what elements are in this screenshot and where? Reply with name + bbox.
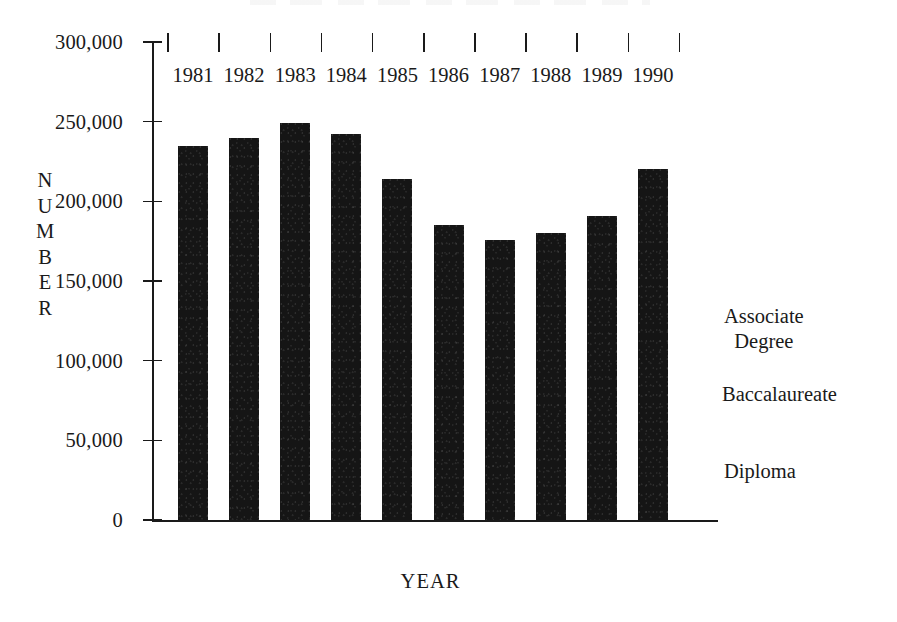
x-tick-label: 1987 [479, 64, 520, 87]
y-tick-label: 150,000 [55, 269, 123, 292]
x-tick [270, 33, 272, 52]
bar [280, 123, 310, 520]
x-axis-title-label: YEAR [401, 570, 461, 593]
y-tick: 250,000 [143, 121, 162, 123]
y-tick: 0 [143, 519, 162, 521]
x-tick-label: 1984 [326, 64, 367, 87]
y-tick: 100,000 [143, 360, 162, 362]
x-tick [423, 33, 425, 52]
x-tick [576, 33, 578, 52]
y-tick-label: 100,000 [55, 349, 123, 372]
bar [485, 240, 515, 520]
x-tick-label: 1990 [633, 64, 674, 87]
x-tick-label: 1982 [224, 64, 265, 87]
bar [536, 233, 566, 520]
bar [178, 146, 208, 520]
x-tick-label: 1981 [172, 64, 213, 87]
x-tick [525, 33, 527, 52]
legend-label-diploma: Diploma [724, 460, 796, 482]
y-tick-label: 250,000 [55, 110, 123, 133]
x-tick [167, 33, 169, 52]
x-tick [218, 33, 220, 52]
y-axis-title-letter: R [32, 296, 58, 322]
bar [587, 216, 617, 520]
y-axis-title-letter: E [32, 270, 58, 296]
x-axis-line [152, 520, 718, 522]
x-tick-label: 1985 [377, 64, 418, 87]
y-tick-label: 50,000 [65, 429, 123, 452]
y-axis-title-letter: M [32, 219, 58, 245]
y-tick: 150,000 [143, 280, 162, 282]
y-tick-label: 0 [113, 508, 123, 531]
y-axis-title-letter: N [32, 168, 58, 194]
cropped-title-remnant [250, 0, 650, 5]
y-tick-label: 300,000 [55, 31, 123, 54]
x-tick [474, 33, 476, 52]
x-tick [321, 33, 323, 52]
y-tick: 50,000 [143, 440, 162, 442]
x-tick-label: 1988 [530, 64, 571, 87]
legend-label-baccalaureate: Baccalaureate [722, 383, 837, 405]
bar-chart: 050,000100,000150,000200,000250,000300,0… [0, 0, 897, 622]
y-tick-label: 200,000 [55, 190, 123, 213]
x-tick [372, 33, 374, 52]
legend-label-degree: Degree [724, 329, 804, 354]
x-tick-label: 1989 [581, 64, 622, 87]
bar [434, 225, 464, 520]
x-tick-label: 1986 [428, 64, 469, 87]
bar [331, 134, 361, 520]
x-tick [679, 33, 681, 52]
plot-area: 050,000100,000150,000200,000250,000300,0… [152, 42, 718, 520]
y-axis-title-letter: B [32, 245, 58, 271]
bar [229, 138, 259, 520]
legend-label-associate: Associate [724, 305, 804, 327]
legend-item-associate-degree: Associate Degree [724, 304, 804, 354]
bar [382, 179, 412, 520]
x-tick [628, 33, 630, 52]
y-axis-title-letter: U [32, 194, 58, 220]
y-axis-title: NUMBER [32, 168, 58, 321]
legend: Associate Degree Baccalaureate Diploma [722, 0, 897, 622]
x-tick-label: 1983 [275, 64, 316, 87]
legend-item-diploma: Diploma [724, 459, 796, 484]
bar [638, 169, 668, 520]
legend-item-baccalaureate: Baccalaureate [722, 382, 837, 407]
y-tick: 300,000 [143, 41, 162, 43]
y-tick: 200,000 [143, 201, 162, 203]
